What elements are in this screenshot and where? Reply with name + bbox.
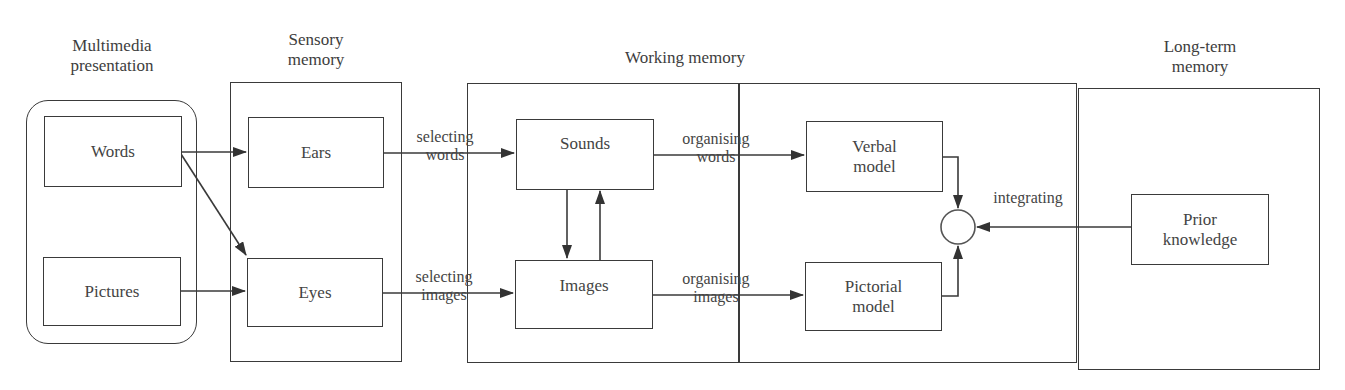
pictorial-model-node: Pictorial model — [805, 262, 942, 331]
eyes-node: Eyes — [247, 258, 383, 327]
prior-knowledge-line2: knowledge — [1163, 230, 1238, 250]
organising-words-line1: organising — [666, 130, 766, 148]
selecting-images-line1: selecting — [404, 268, 484, 286]
pictorial-model-line1: Pictorial — [845, 277, 903, 297]
selecting-images-line2: images — [404, 286, 484, 304]
integrating-label: integrating — [978, 189, 1078, 207]
words-label: Words — [91, 142, 135, 162]
organising-words-label: organising words — [666, 130, 766, 166]
selecting-words-line1: selecting — [405, 128, 485, 146]
verbal-model-node: Verbal model — [806, 121, 943, 192]
selecting-words-line2: words — [405, 146, 485, 164]
organising-images-label: organising images — [666, 270, 766, 306]
images-node: Images — [515, 260, 653, 329]
prior-knowledge-line1: Prior — [1183, 210, 1217, 230]
ears-node: Ears — [248, 117, 384, 188]
integration-node — [941, 210, 975, 244]
pictures-label: Pictures — [85, 282, 140, 302]
eyes-label: Eyes — [298, 283, 331, 303]
organising-images-line2: images — [666, 288, 766, 306]
sounds-label: Sounds — [560, 134, 610, 154]
selecting-images-label: selecting images — [404, 268, 484, 304]
selecting-words-label: selecting words — [405, 128, 485, 164]
pictorial-model-line2: model — [852, 297, 895, 317]
words-node: Words — [44, 116, 182, 187]
verbal-model-line1: Verbal — [852, 137, 896, 157]
ears-label: Ears — [301, 143, 331, 163]
verbal-model-line2: model — [853, 157, 896, 177]
sounds-node: Sounds — [516, 119, 654, 190]
organising-images-line1: organising — [666, 270, 766, 288]
prior-knowledge-node: Prior knowledge — [1131, 194, 1269, 265]
images-label: Images — [559, 276, 608, 296]
integrating-line1: integrating — [978, 189, 1078, 207]
pictures-node: Pictures — [43, 257, 181, 326]
organising-words-line2: words — [666, 148, 766, 166]
